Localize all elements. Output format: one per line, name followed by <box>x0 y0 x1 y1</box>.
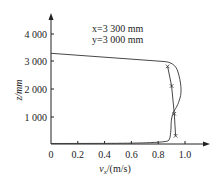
y-tick-label: 4 000 <box>25 29 48 40</box>
x-tick-label: 1.0 <box>179 149 192 160</box>
x-axis-arrow-icon <box>203 142 210 147</box>
y-axis-title: z/mm <box>13 79 24 101</box>
x-axis-title: vx/(m/s) <box>99 163 130 176</box>
measured-line <box>168 66 176 135</box>
y-tick-label: 2 000 <box>25 84 48 95</box>
x-tick-label: 0 <box>49 149 54 160</box>
annotation-x: x=3 300 mm <box>92 23 143 34</box>
x-axis-title-unit: /(m/s) <box>107 163 131 175</box>
annotation-y: y=3 000 mm <box>92 34 143 45</box>
y-tick-label: 3 000 <box>25 56 48 67</box>
x-tick-label: 0.2 <box>72 149 85 160</box>
simulation-curve <box>51 53 181 143</box>
y-tick-label: 1 000 <box>25 112 48 123</box>
measured-markers <box>166 65 178 138</box>
x-tick-label: 0.6 <box>125 149 138 160</box>
x-tick-label: 0.8 <box>152 149 165 160</box>
x-tick-label: 0.4 <box>98 149 111 160</box>
velocity-profile-chart: 1 000 2 000 3 000 4 000 0 0.2 0.4 0.6 0.… <box>0 0 224 189</box>
y-axis-arrow-icon <box>49 13 54 20</box>
